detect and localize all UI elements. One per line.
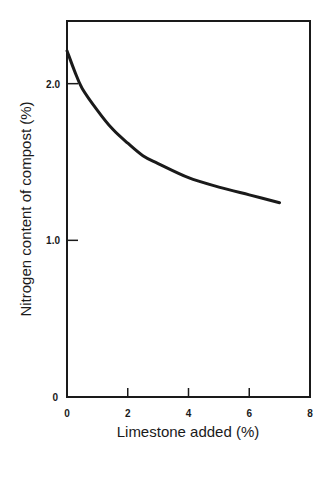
x-tick-label: 2 (125, 408, 131, 419)
y-tick-label: 2.0 (46, 79, 60, 90)
y-axis-ticks: 01.02.0 (46, 79, 78, 403)
y-tick-label: 1.0 (46, 235, 60, 246)
plot-border (67, 21, 310, 397)
y-axis-title: Nitrogen content of compost (%) (17, 101, 34, 316)
plot-frame (67, 21, 310, 397)
x-tick-label: 0 (64, 408, 70, 419)
nitrogen-curve (67, 51, 280, 203)
x-axis-title: Limestone added (%) (117, 423, 260, 440)
x-tick-label: 6 (246, 408, 252, 419)
x-axis-ticks: 02468 (64, 388, 313, 419)
x-tick-label: 4 (186, 408, 192, 419)
y-tick-label: 0 (52, 392, 58, 403)
x-tick-label: 8 (307, 408, 313, 419)
line-chart: 02468 01.02.0 Limestone added (%) Nitrog… (0, 0, 335, 483)
